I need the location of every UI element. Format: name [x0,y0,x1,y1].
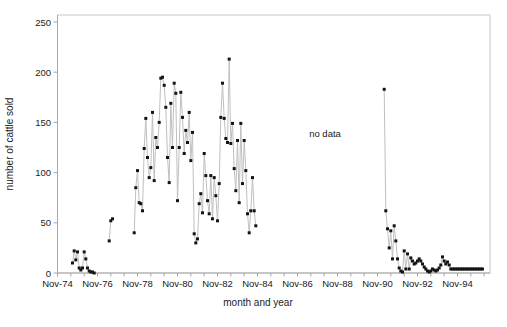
data-point [243,139,246,142]
data-point [201,211,204,214]
data-point [164,106,167,109]
data-point [208,212,211,215]
data-point [221,82,224,85]
x-tick-label: Nov-74 [42,278,73,289]
data-point [183,152,186,155]
data-point [391,257,394,260]
data-point [76,250,79,253]
x-tick-label: Nov-82 [202,278,233,289]
x-tick-label: Nov-84 [242,278,273,289]
data-point [181,116,184,119]
x-tick-label: Nov-80 [162,278,193,289]
data-point [438,267,441,270]
data-point [383,88,386,91]
y-tick-label: 0 [46,268,51,279]
data-point [446,261,449,264]
data-point [73,249,76,252]
data-point [241,182,244,185]
data-point [229,142,232,145]
data-point [386,227,389,230]
data-point [236,139,239,142]
y-tick-label: 50 [40,217,51,228]
data-point [136,169,139,172]
data-point [213,176,216,179]
x-tick-label: Nov-94 [442,278,473,289]
data-point [226,141,229,144]
series-line [384,89,482,272]
data-point [139,202,142,205]
data-point [404,268,407,271]
data-point [443,260,446,263]
data-point [239,122,242,125]
data-point [193,232,196,235]
data-point [439,264,442,267]
y-axis: 050100150200250 [35,17,57,279]
data-point [234,189,237,192]
data-point [203,152,206,155]
series-line [73,251,95,273]
data-point [161,76,164,79]
y-axis-title: number of cattle sold [4,98,15,191]
data-point [153,179,156,182]
data-point [166,156,169,159]
data-point [251,176,254,179]
data-point [189,159,192,162]
plot-border [58,15,491,273]
data-point [134,186,137,189]
data-point [84,257,87,260]
data-point [441,255,444,258]
data-point [244,169,247,172]
data-point [233,167,236,170]
y-tick-label: 200 [35,67,51,78]
data-point [406,252,409,255]
data-point [176,199,179,202]
chart-canvas: 050100150200250 Nov-74Nov-76Nov-78Nov-80… [0,0,507,327]
data-point [209,174,212,177]
data-point [223,117,226,120]
data-point [211,217,214,220]
data-point [394,239,397,242]
data-point [396,257,399,260]
data-point [178,146,181,149]
data-point [184,129,187,132]
x-tick-label: Nov-90 [362,278,393,289]
data-point [409,256,412,259]
data-point [253,209,256,212]
y-tick-label: 150 [35,117,51,128]
data-point [143,147,146,150]
data-point [86,267,89,270]
data-point [141,209,144,212]
data-point [154,136,157,139]
data-point [206,199,209,202]
data-point [196,237,199,240]
data-point [248,231,251,234]
y-tick-label: 250 [35,17,51,28]
series-line [134,59,256,243]
data-point [133,231,136,234]
x-axis-title: month and year [223,297,293,308]
data-point [254,224,257,227]
data-point [71,262,74,265]
x-tick-label: Nov-88 [322,278,353,289]
data-point [246,212,249,215]
data-point [408,268,411,271]
plot-frame [58,15,491,273]
x-tick-label: Nov-76 [82,278,113,289]
data-point [186,141,189,144]
data-point [149,166,152,169]
data-point [218,182,221,185]
x-axis: Nov-74Nov-76Nov-78Nov-80Nov-82Nov-84Nov-… [42,273,484,289]
data-point [228,58,231,61]
data-point [163,84,166,87]
data-series [71,58,484,275]
data-point [191,131,194,134]
data-point [146,156,149,159]
data-point [419,260,422,263]
data-point [411,260,414,263]
data-point [401,271,404,274]
data-point [389,229,392,232]
x-tick-label: Nov-92 [402,278,433,289]
data-point [144,117,147,120]
data-point [148,176,151,179]
data-point [384,209,387,212]
